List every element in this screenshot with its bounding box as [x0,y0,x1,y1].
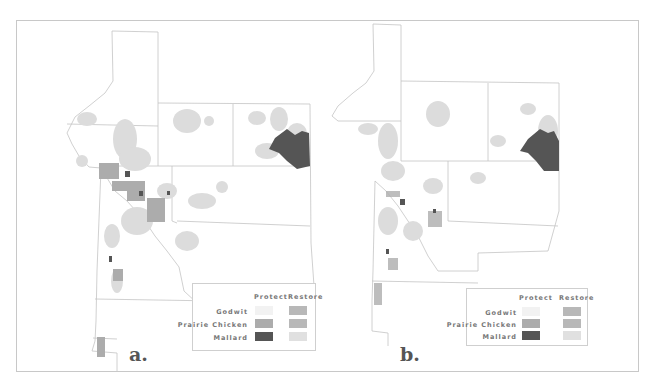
swatch-mallard-protect [522,331,540,340]
swatch-mallard-restore [563,331,581,340]
legend-row-mallard: Mallard [168,334,248,342]
panel-label-b: b. [400,343,420,365]
legend-header-restore: Restore [288,293,323,301]
swatch-godwit-protect [255,306,273,315]
swatch-prairie-chicken-restore [563,319,581,328]
legend-header-restore: Restore [559,294,594,302]
legend-row-prairie-chicken: Prairie Chicken [168,321,248,329]
swatch-godwit-restore [563,307,581,316]
legend-row-godwit: Godwit [437,309,517,317]
swatch-prairie-chicken-protect [522,319,540,328]
legend-row-prairie-chicken: Prairie Chicken [437,321,517,329]
panel-label-a: a. [129,343,148,365]
legend-header-protect: Protect [519,294,553,302]
swatch-mallard-protect [255,332,273,341]
legend-a: Protect Restore Godwit Prairie Chicken M… [192,283,316,351]
swatch-mallard-restore [289,332,307,341]
legend-row-godwit: Godwit [168,308,248,316]
legend-header-protect: Protect [254,293,288,301]
swatch-godwit-protect [522,307,540,316]
swatch-prairie-chicken-protect [255,319,273,328]
legend-b: Protect Restore Godwit Prairie Chicken M… [466,288,588,346]
legend-row-mallard: Mallard [437,333,517,341]
swatch-godwit-restore [289,306,307,315]
swatch-prairie-chicken-restore [289,319,307,328]
figure-frame: a. Protect Restore Godwit Prairie Chicke… [16,20,639,372]
